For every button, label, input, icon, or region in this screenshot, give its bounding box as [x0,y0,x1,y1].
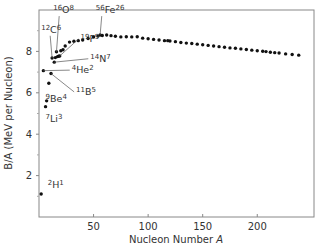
leader-line [43,70,69,71]
data-point [119,35,122,38]
nuclide-label-n14: 14N7 [90,53,111,64]
data-point [277,51,280,54]
data-point [284,52,287,55]
x-tick-label: 50 [87,221,100,232]
data-point [163,39,166,42]
y-tick-label: 2 [26,170,32,181]
data-point [261,49,264,52]
data-point [141,36,144,39]
leader-line [50,36,52,58]
data-point [212,44,215,47]
data-point [109,34,112,37]
data-point [264,50,267,53]
data-point [269,51,272,54]
data-point [105,33,108,36]
nuclide-label-f19: 19F9 [80,33,99,44]
binding-energy-chart: 501001502002468 2H17Li39Be411B54He214N71… [0,0,324,249]
data-point [228,46,231,49]
nuclide-label-li7: 7Li3 [46,113,63,124]
data-point [190,42,193,45]
data-point [174,40,177,43]
data-point [68,40,71,43]
data-point [223,46,226,49]
y-tick-label: 8 [26,46,32,57]
data-point [290,53,293,56]
data-points [39,33,300,195]
data-point [206,44,209,47]
data-point [217,45,220,48]
data-point [185,41,188,44]
data-point [239,47,242,50]
data-point [201,43,204,46]
nuclide-label-b11: 11B5 [76,86,96,97]
leader-line [51,74,74,92]
y-axis-title: B/A (MeV per Nucleon) [3,56,14,169]
data-point [146,37,149,40]
y-tick-label: 6 [26,87,32,98]
data-point [273,51,276,54]
data-point [39,192,42,195]
data-point [234,47,237,50]
data-point [125,35,128,38]
data-point [47,82,50,85]
nuclide-label-fe56: 56Fe26 [96,4,125,15]
data-point [250,48,253,51]
data-point [245,48,248,51]
data-point [152,38,155,41]
data-point [44,105,47,108]
x-axis-title: Nucleon Number A [129,234,223,245]
data-point [256,49,259,52]
data-point [114,35,117,38]
data-point [61,48,64,51]
x-tick-label: 150 [193,221,212,232]
x-tick-label: 100 [139,221,158,232]
y-tick-label: 4 [26,129,32,140]
leader-line [56,16,59,52]
data-point [196,42,199,45]
nuclide-label-he4: 4He2 [72,64,94,75]
nuclide-annotations: 2H17Li39Be411B54He214N712C619F916O856Fe2… [41,4,125,190]
data-point [136,35,139,38]
data-point [101,34,104,37]
axis-ticks: 501001502002468 [26,31,267,232]
leader-line [100,16,102,35]
x-tick-label: 200 [248,221,267,232]
data-point [168,39,171,42]
data-point [63,44,66,47]
data-point [297,53,300,56]
nuclide-label-be9: 9Be4 [46,93,68,104]
data-point [179,41,182,44]
data-point [130,35,133,38]
leader-line [54,59,88,62]
nuclide-label-h2: 2H1 [48,179,64,190]
data-point [157,38,160,41]
nuclide-label-o16: 16O8 [53,4,74,15]
